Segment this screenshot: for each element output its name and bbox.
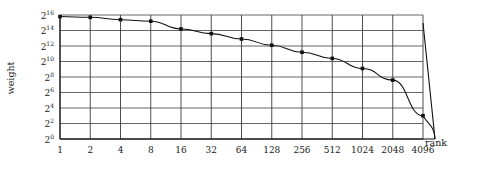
y-axis-title: weight (5, 61, 16, 94)
y-tick-labels: 2162142122102826242220 (41, 9, 55, 145)
data-point (270, 43, 274, 47)
x-tick-label: 2048 (381, 145, 404, 155)
y-tick-label: 210 (41, 55, 55, 67)
x-tick-label: 1024 (351, 145, 374, 155)
x-axis-title: rank (425, 137, 447, 148)
x-tick-labels: 1248163264128256512102420484096 (57, 145, 435, 155)
y-tick-label: 214 (41, 24, 55, 36)
y-tick-label: 212 (41, 40, 55, 52)
data-point (88, 16, 92, 20)
chart-container: 1248163264128256512102420484096 21621421… (0, 0, 480, 176)
data-point (179, 27, 183, 31)
data-point (391, 78, 395, 82)
x-tick-label: 128 (263, 145, 280, 155)
y-tick-label: 20 (44, 133, 54, 145)
y-tick-label: 216 (41, 9, 55, 21)
data-point (119, 18, 123, 22)
x-tick-label: 256 (293, 145, 310, 155)
data-point (240, 37, 244, 41)
data-point (421, 114, 425, 118)
y-tick-label: 22 (44, 117, 54, 129)
y-tick-label: 24 (44, 102, 54, 114)
y-tick-label: 28 (44, 71, 54, 83)
x-tick-label: 2 (87, 145, 93, 155)
x-tick-label: 8 (148, 145, 154, 155)
x-tick-label: 64 (236, 145, 248, 155)
x-tick-label: 16 (175, 145, 187, 155)
data-point (361, 67, 365, 71)
data-point (58, 15, 62, 19)
y-tick-label: 26 (44, 86, 54, 98)
x-tick-label: 32 (206, 145, 217, 155)
data-point (300, 50, 304, 54)
data-point (330, 57, 334, 61)
x-tick-label: 512 (324, 145, 341, 155)
data-point (209, 32, 213, 36)
data-point (149, 19, 153, 23)
x-tick-label: 4 (118, 145, 124, 155)
zipf-weight-rank-chart: 1248163264128256512102420484096 21621421… (0, 0, 480, 176)
x-tick-label: 1 (57, 145, 63, 155)
plot-right-edge (423, 23, 435, 139)
weight-series-line (60, 17, 435, 139)
